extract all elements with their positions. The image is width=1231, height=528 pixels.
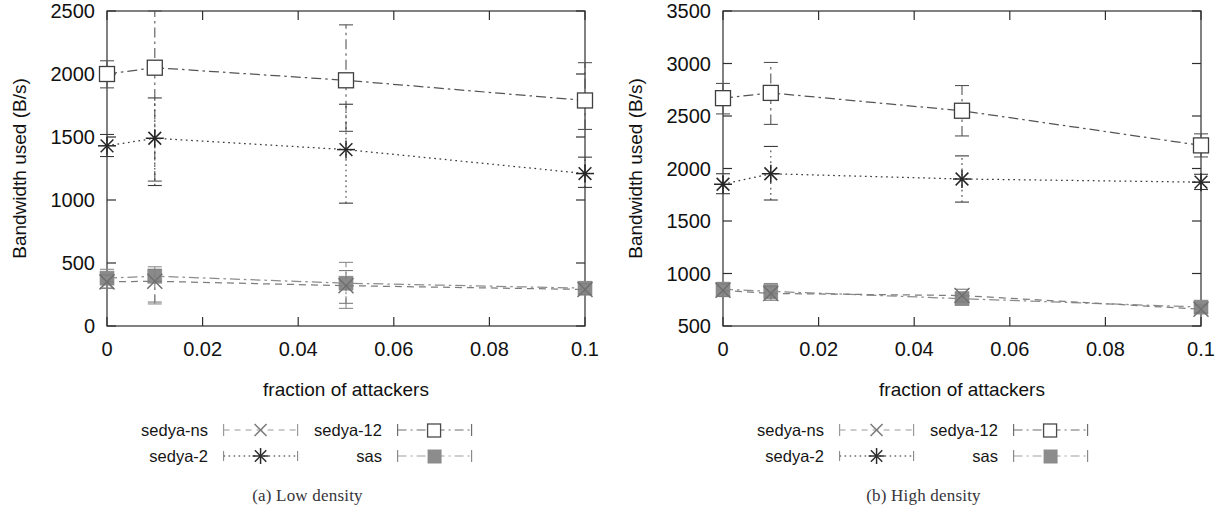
legend-label-sedya-ns: sedya-ns (757, 421, 824, 440)
legend-label-sedya-12: sedya-12 (314, 421, 382, 440)
x-tick-label: 0.1 (1187, 338, 1215, 360)
y-tick-label: 2500 (51, 0, 96, 22)
legend-key-sedya-ns (222, 420, 300, 440)
x-tick-label: 0.04 (895, 338, 934, 360)
legend-b: sedya-ns sedya-12 (616, 420, 1231, 478)
marker-asterisk (337, 141, 355, 159)
legend-label-sas: sas (930, 447, 998, 466)
series-sedya-12 (716, 62, 1209, 157)
y-tick-label: 500 (678, 315, 711, 337)
marker-open-square (763, 85, 778, 100)
y-tick-label: 2500 (667, 105, 712, 127)
y-tick-label: 1000 (667, 263, 712, 285)
y-tick-label: 500 (62, 252, 95, 274)
x-tick-label: 0 (717, 338, 728, 360)
chart-b: 50010001500200025003000350000.020.040.06… (616, 0, 1231, 410)
x-tick-label: 0.06 (990, 338, 1029, 360)
y-tick-label: 2000 (667, 158, 712, 180)
x-tick-label: 0.1 (571, 338, 599, 360)
legend-label-sedya-12: sedya-12 (930, 421, 998, 440)
subfigure-a: 0500100015002000250000.020.040.060.080.1… (0, 0, 615, 528)
marker-asterisk (762, 165, 780, 183)
legend-a: sedya-ns sedya-12 (0, 420, 615, 478)
marker-open-square (339, 73, 354, 88)
y-tick-label: 1500 (667, 210, 712, 232)
x-tick-label: 0.08 (1086, 338, 1125, 360)
x-tick-label: 0.04 (279, 338, 318, 360)
legend-key-sedya-12 (1012, 420, 1090, 440)
figure-container: 0500100015002000250000.020.040.060.080.1… (0, 0, 1231, 528)
legend-key-sas (1012, 446, 1090, 466)
plot-area-a: 0500100015002000250000.020.040.060.080.1… (0, 0, 615, 410)
y-tick-label: 1000 (51, 189, 96, 211)
x-axis-title: fraction of attackers (263, 379, 429, 400)
x-tick-label: 0.08 (470, 338, 509, 360)
marker-asterisk (714, 175, 732, 193)
plot-frame (723, 11, 1201, 326)
legend-key-sedya-2 (838, 446, 916, 466)
marker-open-square (147, 60, 162, 75)
x-tick-label: 0.02 (799, 338, 838, 360)
marker-asterisk (576, 165, 594, 183)
marker-asterisk (146, 129, 164, 147)
legend-label-sedya-ns: sedya-ns (141, 421, 208, 440)
chart-a: 0500100015002000250000.020.040.060.080.1… (0, 0, 615, 410)
subfigure-b: 50010001500200025003000350000.020.040.06… (616, 0, 1231, 528)
caption-a: (a) Low density (0, 486, 615, 506)
y-tick-label: 0 (84, 315, 95, 337)
marker-open-square (100, 67, 115, 82)
marker-open-square (716, 91, 731, 106)
x-tick-label: 0.02 (183, 338, 222, 360)
series-sedya-2 (714, 146, 1210, 202)
y-axis-title: Bandwidth used (B/s) (9, 78, 30, 259)
caption-b: (b) High density (616, 486, 1231, 506)
legend-key-sedya-ns (838, 420, 916, 440)
marker-open-square (578, 93, 593, 108)
y-axis-title: Bandwidth used (B/s) (625, 78, 646, 259)
series-sedya-2 (98, 98, 594, 203)
y-tick-label: 3500 (667, 0, 712, 22)
y-tick-label: 1500 (51, 126, 96, 148)
legend-key-sedya-12 (396, 420, 474, 440)
series-sedya-ns (716, 283, 1209, 317)
legend-key-sedya-2 (222, 446, 300, 466)
legend-label-sas: sas (314, 447, 382, 466)
marker-asterisk (953, 170, 971, 188)
legend-label-sedya-2: sedya-2 (757, 447, 824, 466)
y-tick-label: 3000 (667, 53, 712, 75)
legend-label-sedya-2: sedya-2 (141, 447, 208, 466)
marker-asterisk (1192, 173, 1210, 191)
marker-open-square (955, 103, 970, 118)
y-tick-label: 2000 (51, 63, 96, 85)
plot-area-b: 50010001500200025003000350000.020.040.06… (616, 0, 1231, 410)
x-tick-label: 0 (101, 338, 112, 360)
marker-open-square (1194, 138, 1209, 153)
x-tick-label: 0.06 (374, 338, 413, 360)
legend-key-sas (396, 446, 474, 466)
marker-asterisk (98, 137, 116, 155)
x-axis-title: fraction of attackers (879, 379, 1045, 400)
